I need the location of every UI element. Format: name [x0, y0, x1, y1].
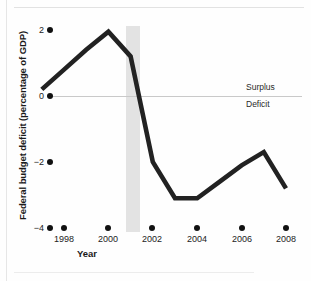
- chart-plot-area: Federal budget deficit (percentage of GD…: [0, 0, 311, 281]
- data-series-line: [42, 32, 286, 199]
- figure-container: Federal budget deficit (percentage of GD…: [0, 0, 311, 281]
- data-series-svg: [0, 0, 311, 281]
